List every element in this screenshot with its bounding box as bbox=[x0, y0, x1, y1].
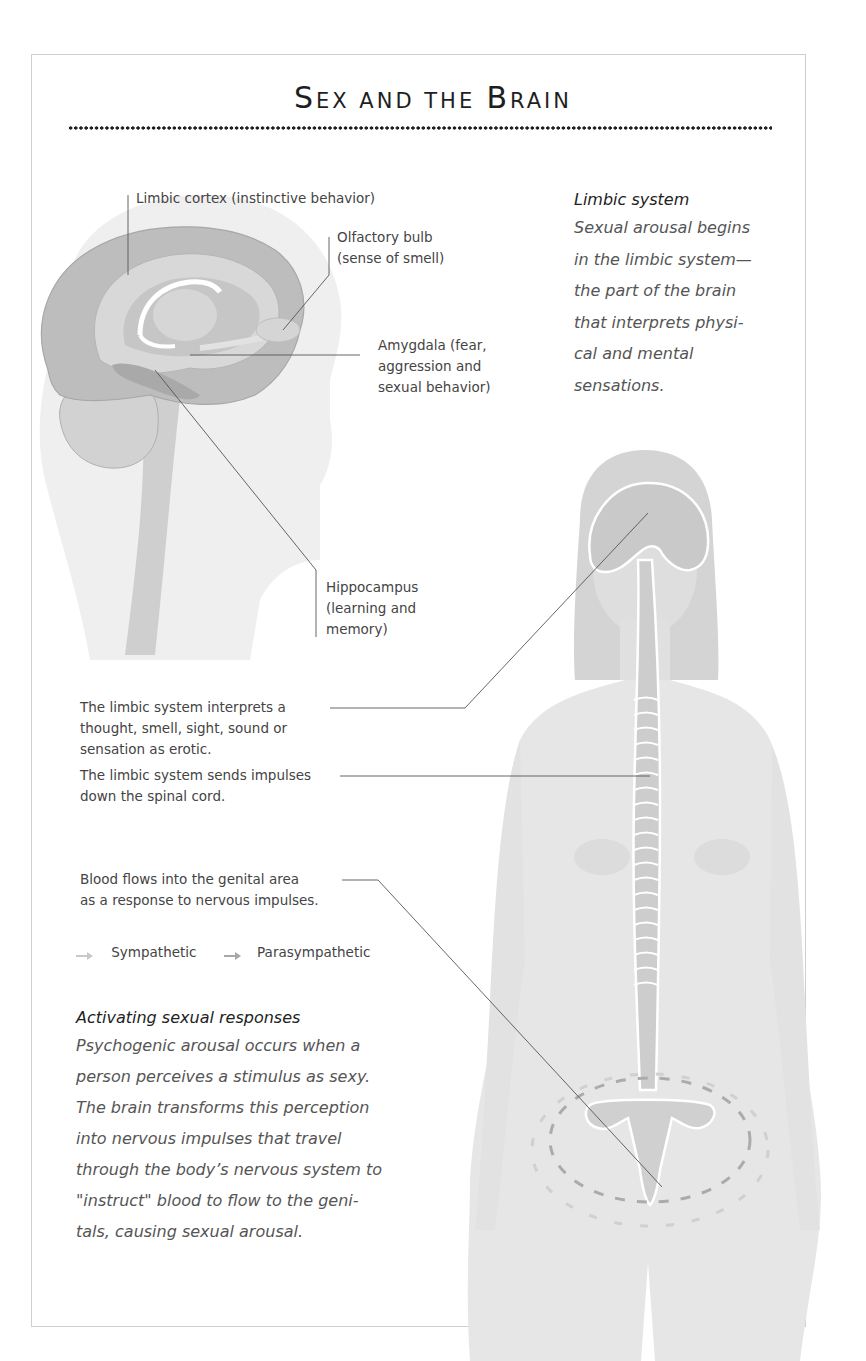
step-2-line1: The limbic system sends impulses bbox=[80, 765, 311, 786]
legend-sympathetic-label: Sympathetic bbox=[111, 944, 196, 960]
label-amygdala: Amygdala (fear, aggression and sexual be… bbox=[378, 335, 490, 398]
spinal-column bbox=[633, 560, 660, 1090]
label-olfactory-bulb-line1: Olfactory bulb bbox=[337, 227, 444, 248]
label-amygdala-line1: Amygdala (fear, bbox=[378, 335, 490, 356]
label-limbic-cortex: Limbic cortex (instinctive behavior) bbox=[136, 188, 375, 209]
legend-parasympathetic-label: Parasympathetic bbox=[257, 944, 370, 960]
label-olfactory-bulb: Olfactory bulb (sense of smell) bbox=[337, 227, 444, 269]
step-1-line2: thought, smell, sight, sound or bbox=[80, 718, 287, 739]
activating-responses-description: Psychogenic arousal occurs when a person… bbox=[76, 1030, 382, 1247]
parasympathetic-arrow-icon bbox=[223, 948, 241, 958]
step-blood-flow: Blood flows into the genital area as a r… bbox=[80, 869, 319, 911]
step-interpretation: The limbic system interprets a thought, … bbox=[80, 697, 287, 760]
label-hippocampus-line3: memory) bbox=[326, 619, 418, 640]
label-amygdala-line3: sexual behavior) bbox=[378, 377, 490, 398]
step-1-line1: The limbic system interprets a bbox=[80, 697, 287, 718]
limbic-system-description: Sexual arousal begins in the limbic syst… bbox=[574, 212, 752, 401]
step-3-line2: as a response to nervous impulses. bbox=[80, 890, 319, 911]
label-hippocampus-line2: (learning and bbox=[326, 598, 418, 619]
step-impulses: The limbic system sends impulses down th… bbox=[80, 765, 311, 807]
step-3-line1: Blood flows into the genital area bbox=[80, 869, 319, 890]
label-olfactory-bulb-line2: (sense of smell) bbox=[337, 248, 444, 269]
step-1-line3: sensation as erotic. bbox=[80, 739, 287, 760]
limbic-system-heading: Limbic system bbox=[574, 190, 689, 209]
label-amygdala-line2: aggression and bbox=[378, 356, 490, 377]
legend: Sympathetic Parasympathetic bbox=[75, 944, 370, 960]
activating-responses-heading: Activating sexual responses bbox=[76, 1008, 300, 1027]
step-2-line2: down the spinal cord. bbox=[80, 786, 311, 807]
sympathetic-arrow-icon bbox=[75, 948, 93, 958]
label-hippocampus-line1: Hippocampus bbox=[326, 577, 418, 598]
label-hippocampus: Hippocampus (learning and memory) bbox=[326, 577, 418, 640]
